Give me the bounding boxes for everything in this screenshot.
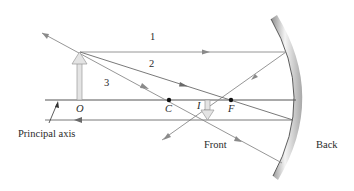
- center-label: C: [165, 104, 172, 115]
- front-label: Front: [204, 140, 227, 151]
- ray-diagram: [0, 0, 354, 191]
- back-label: Back: [316, 140, 338, 151]
- principal-axis-label: Principal axis: [18, 129, 75, 140]
- ray-1: [80, 50, 286, 141]
- focus-label: F: [228, 104, 234, 115]
- focal-point: [229, 98, 233, 102]
- image-arrow: [201, 100, 214, 120]
- ray-3-label: 3: [104, 78, 109, 89]
- object-arrow: [72, 52, 87, 100]
- concave-mirror: [271, 15, 302, 180]
- ray-2-label: 2: [149, 59, 154, 70]
- ray-1-label: 1: [150, 32, 155, 43]
- center-of-curvature-point: [167, 98, 171, 102]
- image-label: I: [197, 101, 201, 112]
- object-label: O: [76, 104, 84, 115]
